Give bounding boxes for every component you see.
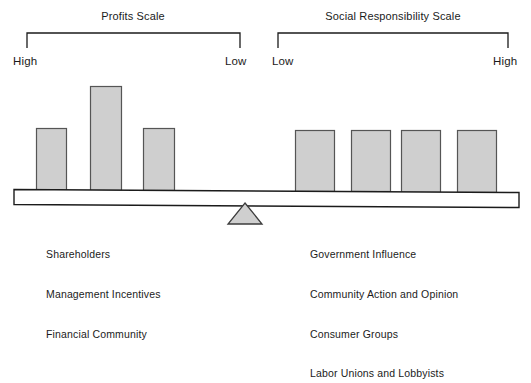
list-item: Shareholders: [46, 248, 161, 261]
social-responsibility-factors-list: Government Influence Community Action an…: [310, 222, 458, 383]
bar-management-incentives: [91, 87, 122, 191]
social-responsibility-scale-left-label: Low: [272, 55, 294, 67]
bar-financial-community: [144, 129, 175, 191]
list-item: Community Action and Opinion: [310, 288, 458, 301]
bar-community-action-and-opinion: [352, 131, 391, 192]
profits-scale-right-label: Low: [225, 55, 247, 67]
social-responsibility-scale-title: Social Responsibility Scale: [318, 10, 468, 22]
list-item: Financial Community: [46, 328, 161, 341]
profits-scale-bracket: [27, 33, 240, 48]
list-item: Labor Unions and Lobbyists: [310, 367, 458, 380]
balance-beam: [14, 190, 519, 208]
profits-scale-title: Profits Scale: [73, 10, 193, 22]
bar-consumer-groups: [402, 131, 441, 193]
profits-bars: [37, 87, 175, 191]
social-responsibility-scale-right-label: High: [493, 55, 517, 67]
social-responsibility-scale-bracket: [278, 33, 508, 48]
profits-factors-list: Shareholders Management Incentives Finan…: [46, 222, 161, 367]
list-item: Consumer Groups: [310, 328, 458, 341]
bar-shareholders: [37, 129, 67, 191]
list-item: Management Incentives: [46, 288, 161, 301]
profits-scale-left-label: High: [13, 55, 37, 67]
bar-labor-unions-and-lobbyists: [458, 131, 497, 193]
social-responsibility-bars: [296, 131, 497, 193]
bar-government-influence: [296, 131, 335, 192]
list-item: Government Influence: [310, 248, 458, 261]
